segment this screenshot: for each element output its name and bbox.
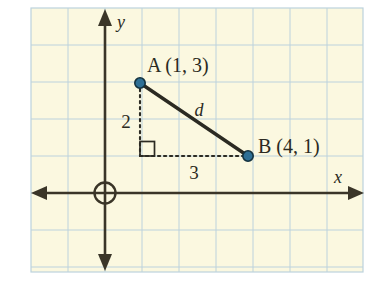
coordinate-plane-diagram: A (1, 3) B (4, 1) d 2 3 y x [0,0,379,285]
point-a-label: A (1, 3) [147,54,209,77]
segment-length-label: d [195,100,205,120]
point-b-dot[interactable] [243,151,253,161]
point-a-dot[interactable] [135,78,145,88]
vertical-leg-label: 2 [121,111,131,132]
point-b-label: B (4, 1) [258,135,320,158]
x-axis-label: x [333,167,342,187]
y-axis-label: y [115,12,125,32]
figure-canvas: A (1, 3) B (4, 1) d 2 3 y x [0,0,379,285]
horizontal-leg-label: 3 [189,162,199,183]
